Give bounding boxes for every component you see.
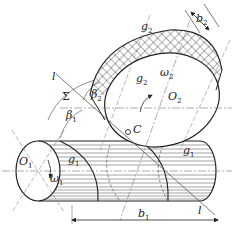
crossed-helical-gears-diagram: l Σ β1 β2 g2 g2 b2 ω2 O2 O1 g1 ω1 C g1 l… [0, 0, 234, 236]
label-g1-left: g1 [68, 153, 80, 168]
label-b2: b2 [196, 12, 208, 27]
label-b1: b1 [138, 207, 150, 222]
label-beta1: β1 [65, 109, 77, 124]
label-omega1: ω1 [50, 172, 63, 187]
gear2-disk [60, 15, 232, 220]
label-g1-right: g1 [183, 144, 195, 159]
contact-point-c [126, 130, 131, 135]
label-sigma: Σ [62, 90, 70, 103]
label-g2-top: g2 [141, 20, 153, 35]
label-l-bottom: l [198, 204, 202, 217]
label-l-top: l [52, 70, 56, 83]
label-C: C [133, 123, 142, 136]
